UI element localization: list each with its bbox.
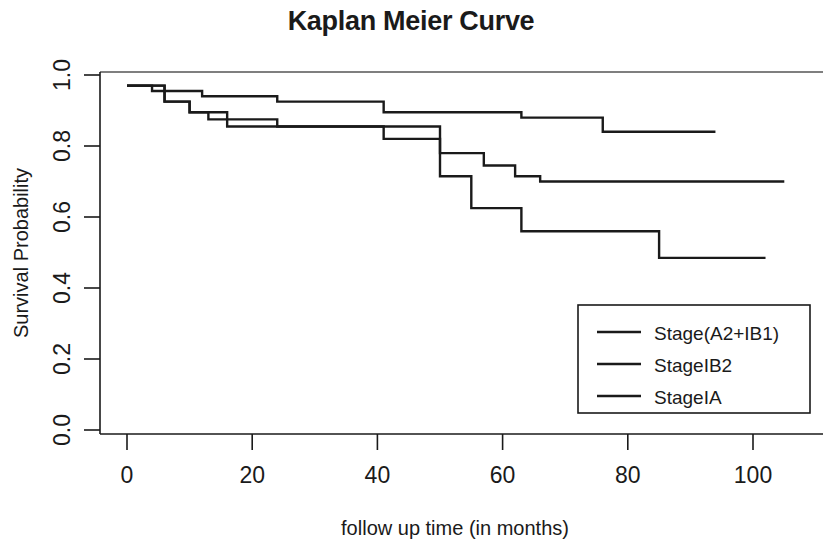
legend-label-stage-ib2: StageIB2 bbox=[654, 355, 732, 376]
y-tick-label-0.2: 0.2 bbox=[49, 343, 75, 375]
survival-curve-stage-a2-ib1 bbox=[127, 86, 715, 132]
x-tick-label-0: 0 bbox=[121, 462, 134, 488]
kaplan-meier-figure: Kaplan Meier Curve 0.00.20.40.60.81.0 02… bbox=[0, 0, 823, 547]
x-tick-label-80: 80 bbox=[615, 462, 641, 488]
y-axis-title: Survival Probability bbox=[10, 168, 32, 338]
chart-canvas: Kaplan Meier Curve 0.00.20.40.60.81.0 02… bbox=[0, 0, 823, 547]
y-tick-label-0.0: 0.0 bbox=[49, 414, 75, 446]
chart-title: Kaplan Meier Curve bbox=[288, 6, 535, 36]
x-axis-title: follow up time (in months) bbox=[341, 517, 569, 539]
x-axis-tick-labels: 020406080100 bbox=[121, 462, 773, 488]
x-axis-ticks bbox=[127, 434, 753, 450]
survival-curves bbox=[127, 86, 784, 258]
y-tick-label-0.4: 0.4 bbox=[49, 272, 75, 304]
y-tick-label-0.8: 0.8 bbox=[49, 130, 75, 162]
x-tick-label-60: 60 bbox=[490, 462, 516, 488]
y-tick-label-1.0: 1.0 bbox=[49, 59, 75, 91]
survival-curve-stageib2 bbox=[127, 86, 784, 182]
legend-label-stage-a2-ib1: Stage(A2+IB1) bbox=[654, 323, 779, 344]
chart-legend: Stage(A2+IB1) StageIB2 StageIA bbox=[578, 305, 810, 413]
x-tick-label-100: 100 bbox=[734, 462, 772, 488]
legend-label-stage-ia: StageIA bbox=[654, 387, 722, 408]
y-axis-tick-labels: 0.00.20.40.60.81.0 bbox=[49, 59, 75, 446]
y-axis-ticks bbox=[84, 75, 100, 430]
x-tick-label-20: 20 bbox=[239, 462, 265, 488]
y-tick-label-0.6: 0.6 bbox=[49, 201, 75, 233]
x-tick-label-40: 40 bbox=[365, 462, 391, 488]
